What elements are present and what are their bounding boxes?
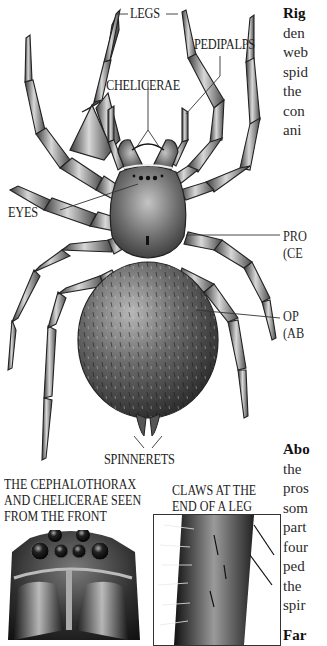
- caption-line: END OF A LEG: [172, 499, 256, 515]
- text-line: the: [283, 82, 327, 102]
- text-line: four: [283, 538, 327, 558]
- text-line: spid: [283, 63, 327, 83]
- paragraph-heading: Rig: [283, 5, 306, 21]
- caption-line: THE CEPHALOTHORAX: [4, 477, 141, 493]
- claw-leg-illustration: [154, 515, 280, 645]
- caption-line: AND CHELICERAE SEEN: [4, 493, 141, 509]
- caption-line: CLAWS AT THE: [172, 483, 256, 499]
- label-pedipalps: PEDIPALPS: [194, 37, 255, 52]
- eye: [54, 544, 68, 558]
- text-line: den: [283, 24, 327, 44]
- label-chelicerae: CHELICERAE: [106, 78, 180, 93]
- sidebar-paragraph-top: Rig den web spid the con ani: [283, 4, 327, 141]
- eye: [153, 176, 157, 180]
- text-line: the: [283, 460, 327, 480]
- label-opisthosoma-line1: OP: [283, 308, 322, 325]
- spider-illustration: [0, 0, 327, 470]
- label-opisthosoma: OP (AB: [283, 308, 322, 342]
- text-line: part: [283, 518, 327, 538]
- label-opisthosoma-line2: (AB: [283, 325, 322, 342]
- label-spinnerets: SPINNERETS: [104, 452, 175, 467]
- inset-caption-cephalothorax: THE CEPHALOTHORAX AND CHELICERAE SEEN FR…: [4, 477, 141, 525]
- text-line: con: [283, 102, 327, 122]
- text-line: ped: [283, 557, 327, 577]
- label-eyes: EYES: [8, 205, 38, 220]
- eye: [72, 544, 86, 558]
- text-line: som: [283, 499, 327, 519]
- label-prosoma-line2: (CE: [283, 245, 322, 262]
- paragraph-heading: Abo: [283, 441, 310, 457]
- sidebar-paragraph-bottom: Abo the pros som part four ped the spir …: [283, 440, 327, 645]
- text-line: pros: [283, 479, 327, 499]
- eye: [133, 175, 136, 178]
- eye: [161, 175, 164, 178]
- label-prosoma: PRO (CE: [283, 228, 322, 262]
- label-legs: LEGS: [130, 6, 160, 21]
- text-line: the: [283, 577, 327, 597]
- inset-caption-claws: CLAWS AT THE END OF A LEG: [172, 483, 256, 515]
- next-heading: Far: [283, 627, 306, 643]
- abdomen: [78, 262, 218, 418]
- inset-cephalothorax-front: [0, 530, 160, 640]
- eye: [139, 176, 143, 180]
- text-line: spir: [283, 596, 327, 616]
- caption-line: FROM THE FRONT: [4, 509, 141, 525]
- inset-claw-box: [153, 514, 281, 646]
- text-line: web: [283, 43, 327, 63]
- cephalothorax: [110, 165, 186, 258]
- eye: [91, 542, 109, 560]
- eye: [31, 542, 49, 560]
- label-prosoma-line1: PRO: [283, 228, 322, 245]
- eye: [146, 176, 150, 180]
- text-line: ani: [283, 121, 327, 141]
